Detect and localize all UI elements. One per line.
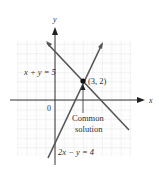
- annotation-line-2: solution: [75, 124, 103, 134]
- point-label: (3, 2): [88, 76, 107, 86]
- equation-label-1: x + y = 5: [23, 67, 56, 77]
- y-axis-label: y: [52, 15, 57, 24]
- graph-figure: x y 0 x + y = 5 2x − y = 4 (3, 2) Common…: [0, 0, 159, 176]
- grid: [17, 41, 131, 156]
- annotation-line-1: Common: [72, 113, 104, 123]
- origin-label: 0: [47, 104, 51, 113]
- equation-label-2: 2x − y = 4: [58, 147, 95, 157]
- x-axis-label: x: [148, 96, 153, 105]
- y-axis-arrow-icon: [52, 27, 58, 35]
- x-axis-arrow-icon: [137, 97, 145, 103]
- solution-point: [80, 78, 85, 83]
